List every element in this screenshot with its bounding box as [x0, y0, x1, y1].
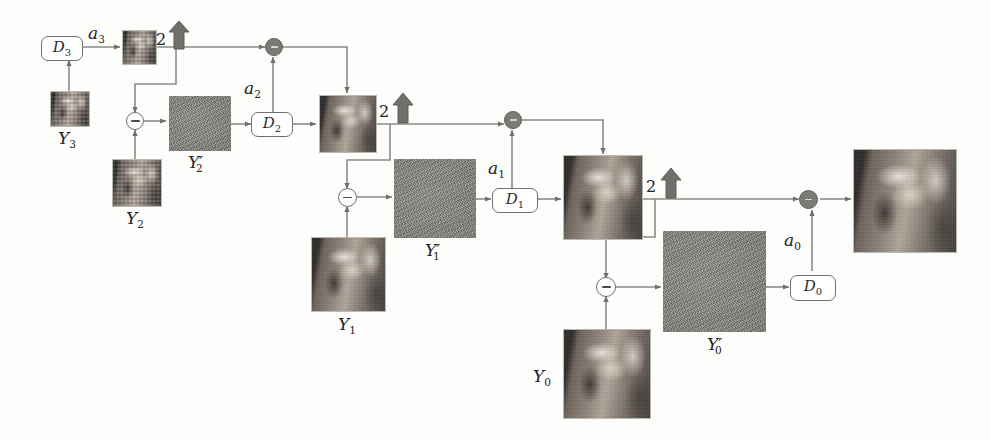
encoder-box-D2[interactable]: D2 — [251, 112, 293, 137]
image-label-Y0: Y0 — [533, 368, 551, 388]
pyramid-diagram: D3 D2 D1 D0 a3 a2 a1 a0 2 2 2 Y3 Y2 Y1 Y… — [0, 0, 990, 440]
adder-stage-0 — [799, 190, 818, 209]
subtractor-stage-2 — [126, 112, 144, 130]
image-label-Y3: Y3 — [58, 130, 76, 150]
encoder-box-D0[interactable]: D0 — [790, 275, 836, 301]
source-image-Y0 — [563, 329, 651, 419]
encoder-label-D2: D — [263, 114, 275, 132]
adder-stage-2 — [265, 38, 283, 56]
image-label-Y1: Y1 — [338, 316, 356, 336]
upsample-stage-3-icon — [168, 20, 190, 50]
residual-block-Y1-prime — [394, 159, 476, 238]
encoder-box-D3[interactable]: D3 — [41, 36, 83, 61]
encoder-label-D3: D — [53, 38, 65, 56]
residual-block-Y2-prime — [169, 96, 231, 151]
connector-wires — [0, 0, 990, 440]
upsample-stage-1-icon — [660, 167, 682, 199]
residual-label-Y0-prime: Y′0 — [707, 336, 722, 356]
source-image-Y1 — [311, 237, 386, 312]
upsample-factor-label-stage-2: 2 — [379, 104, 389, 120]
encoder-label-D0: D — [804, 277, 816, 295]
reconstruction-image-stage-1 — [563, 155, 643, 240]
upsample-factor-label-stage-1: 2 — [646, 179, 656, 195]
encoder-sub-D2: 2 — [275, 123, 281, 134]
output-image — [853, 149, 957, 253]
encoder-sub-D0: 0 — [816, 286, 822, 297]
image-label-Y2: Y2 — [126, 210, 144, 230]
adder-stage-1 — [504, 111, 522, 129]
bitstream-label-a2: a2 — [244, 80, 261, 100]
residual-block-Y0-prime — [663, 231, 766, 332]
bitstream-label-a1: a1 — [488, 160, 505, 180]
reconstruction-image-stage-2 — [319, 95, 377, 153]
residual-label-Y1-prime: Y′1 — [425, 242, 440, 262]
residual-label-Y2-prime: Y′2 — [188, 154, 203, 174]
encoder-sub-D1: 1 — [518, 199, 524, 210]
bitstream-label-a3: a3 — [88, 25, 105, 45]
source-image-Y3 — [50, 91, 90, 127]
bitstream-label-a0: a0 — [784, 232, 801, 252]
encoder-label-D1: D — [506, 190, 518, 208]
encoder-box-D1[interactable]: D1 — [492, 188, 538, 213]
subtractor-stage-0 — [596, 277, 616, 297]
subtractor-stage-1 — [338, 188, 357, 207]
source-image-Y2 — [112, 159, 162, 207]
reconstruction-image-stage-3 — [122, 30, 157, 65]
upsample-stage-2-icon — [392, 92, 414, 124]
upsample-factor-label-stage-3: 2 — [156, 32, 166, 48]
encoder-sub-D3: 3 — [65, 47, 71, 58]
